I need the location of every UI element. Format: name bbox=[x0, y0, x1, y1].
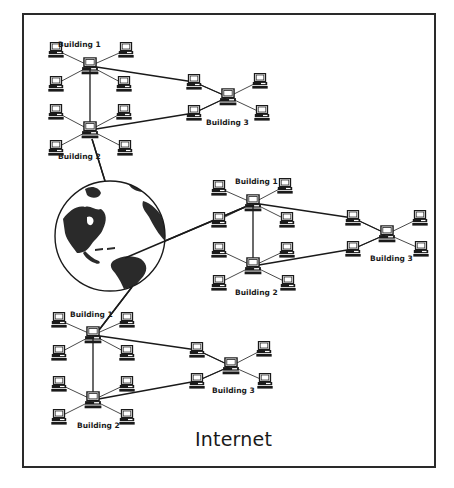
server-computer-icon bbox=[245, 258, 262, 275]
building-label: Building 3 bbox=[206, 118, 249, 127]
computer-icon bbox=[119, 346, 134, 361]
building-link bbox=[253, 249, 353, 266]
computer-icon bbox=[119, 313, 134, 328]
computer-icon bbox=[116, 105, 131, 120]
computer-icon bbox=[189, 343, 204, 358]
computer-icon bbox=[211, 276, 226, 291]
server-computer-icon bbox=[245, 195, 262, 212]
internet-network-diagram: Building 1Building 2Building 3Building 1… bbox=[0, 0, 454, 488]
computer-icon bbox=[186, 75, 201, 90]
computer-icon bbox=[412, 211, 427, 226]
computer-icon bbox=[345, 242, 360, 257]
computer-icon bbox=[256, 342, 271, 357]
building-label: Building 2 bbox=[58, 152, 101, 161]
computer-icon bbox=[119, 377, 134, 392]
building-label: Building 1 bbox=[70, 310, 113, 319]
computer-icon bbox=[51, 410, 66, 425]
computer-icon bbox=[48, 105, 63, 120]
computer-icon bbox=[211, 181, 226, 196]
server-computer-icon bbox=[85, 327, 102, 344]
server-computer-icon bbox=[85, 392, 102, 409]
diagram-title: Internet bbox=[195, 428, 272, 450]
computer-icon bbox=[277, 179, 292, 194]
server-computer-icon bbox=[379, 226, 396, 243]
computer-icon bbox=[51, 377, 66, 392]
computer-icon bbox=[116, 77, 131, 92]
building-label: Building 2 bbox=[77, 421, 120, 430]
building-link bbox=[93, 381, 197, 400]
computer-icon bbox=[279, 243, 294, 258]
building-label: Building 3 bbox=[212, 386, 255, 395]
computer-icon bbox=[413, 242, 428, 257]
globe-icon bbox=[55, 139, 245, 330]
computer-icon bbox=[51, 346, 66, 361]
server-computer-icon bbox=[223, 358, 240, 375]
computer-icon bbox=[48, 77, 63, 92]
computer-icon bbox=[118, 43, 133, 58]
computer-icon bbox=[211, 243, 226, 258]
computer-icon bbox=[211, 213, 226, 228]
server-computer-icon bbox=[220, 89, 237, 106]
computer-icon bbox=[345, 211, 360, 226]
computer-icon bbox=[119, 410, 134, 425]
building-label: Building 1 bbox=[58, 40, 101, 49]
computer-icon bbox=[279, 213, 294, 228]
computer-icon bbox=[252, 74, 267, 89]
computer-icon bbox=[189, 374, 204, 389]
computer-icon bbox=[280, 276, 295, 291]
computer-icon bbox=[257, 374, 272, 389]
building-label: Building 1 bbox=[235, 177, 278, 186]
computer-icon bbox=[51, 313, 66, 328]
computer-icon bbox=[117, 141, 132, 156]
computer-icon bbox=[186, 106, 201, 121]
server-computer-icon bbox=[82, 58, 99, 75]
server-computer-icon bbox=[82, 122, 99, 139]
computer-icon bbox=[254, 106, 269, 121]
building-label: Building 2 bbox=[235, 288, 278, 297]
building-label: Building 3 bbox=[370, 254, 413, 263]
building-link bbox=[93, 335, 197, 350]
